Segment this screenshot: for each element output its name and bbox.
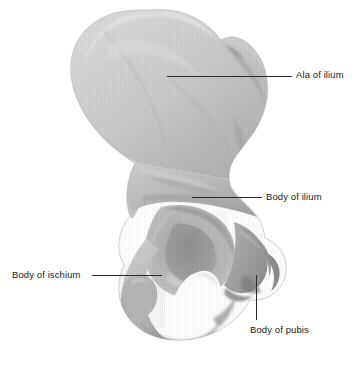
leader-line-ala-of-ilium (167, 76, 292, 77)
hip-bone-illustration (0, 0, 360, 373)
label-body-of-ischium[interactable]: Body of ischium (12, 269, 81, 281)
leader-line-body-of-pubis (256, 275, 257, 320)
hip-bone-figure: Ala of ilium Body of ilium Body of ischi… (0, 0, 360, 373)
label-body-of-ilium[interactable]: Body of ilium (266, 191, 322, 203)
leader-line-body-of-ischium (92, 275, 162, 276)
label-ala-of-ilium[interactable]: Ala of ilium (296, 69, 344, 81)
leader-line-body-of-ilium (192, 197, 262, 198)
label-body-of-pubis[interactable]: Body of pubis (250, 324, 309, 336)
